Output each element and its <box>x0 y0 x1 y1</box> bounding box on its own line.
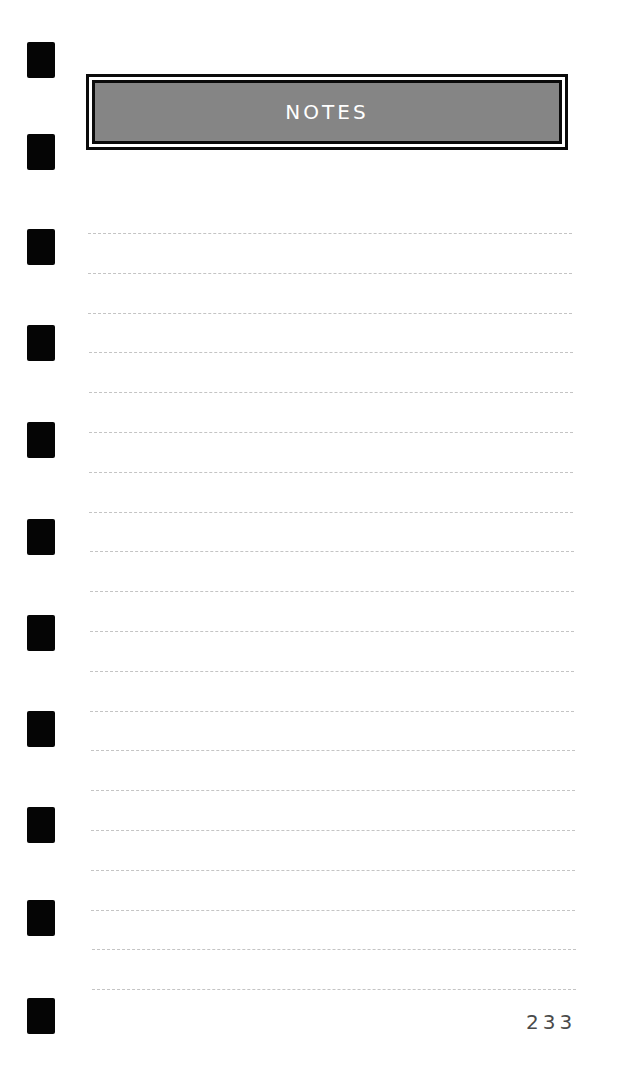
binder-hole <box>27 900 55 936</box>
ruled-line <box>89 472 573 473</box>
notes-header-banner: NOTES <box>92 80 562 144</box>
ruled-line <box>92 949 576 950</box>
page-title: NOTES <box>285 100 368 124</box>
ruled-line <box>91 910 575 911</box>
ruled-line <box>90 671 574 672</box>
ruled-line <box>89 432 573 433</box>
ruled-line <box>89 352 573 353</box>
binder-hole <box>27 711 55 747</box>
ruled-line <box>91 830 575 831</box>
ruled-line <box>88 233 572 234</box>
binder-hole <box>27 325 55 361</box>
binder-hole <box>27 134 55 170</box>
binder-hole <box>27 422 55 458</box>
ruled-line <box>90 551 574 552</box>
binder-hole <box>27 519 55 555</box>
binder-hole <box>27 229 55 265</box>
ruled-line <box>89 512 573 513</box>
ruled-line <box>88 273 572 274</box>
ruled-line <box>91 750 575 751</box>
ruled-line <box>90 711 574 712</box>
binder-hole <box>27 807 55 843</box>
ruled-line <box>92 989 576 990</box>
binder-hole <box>27 615 55 651</box>
binder-hole <box>27 42 55 78</box>
page-number: 233 <box>526 1010 576 1034</box>
ruled-line <box>91 870 575 871</box>
ruled-line <box>88 313 572 314</box>
notes-header-frame: NOTES <box>86 74 568 150</box>
ruled-line <box>89 392 573 393</box>
ruled-line <box>90 631 574 632</box>
ruled-line <box>91 790 575 791</box>
ruled-line <box>90 591 574 592</box>
binder-hole <box>27 998 55 1034</box>
